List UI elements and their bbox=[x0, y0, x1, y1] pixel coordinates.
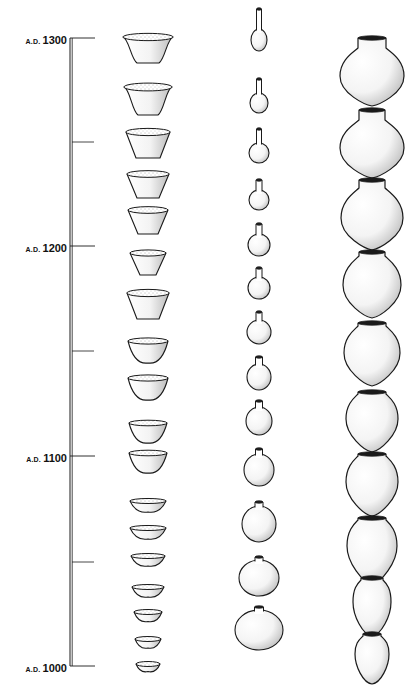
bottle bbox=[246, 400, 272, 435]
year-label-1200: A.D. 1200 bbox=[26, 239, 67, 255]
bowl-bowl-shallow bbox=[135, 637, 161, 649]
bowl-bowl-conical bbox=[130, 250, 166, 275]
bowl-bowl-shallow bbox=[132, 585, 164, 598]
bowl-bowl-flared bbox=[124, 83, 172, 115]
bottle bbox=[248, 267, 270, 299]
bowl-bowl-shallow bbox=[134, 610, 162, 622]
bottle bbox=[248, 223, 270, 256]
bowl-bowl-shallow bbox=[130, 498, 166, 512]
jar bbox=[341, 178, 403, 250]
bowl-bowl-conical bbox=[126, 128, 170, 158]
jar bbox=[353, 576, 391, 636]
bottle bbox=[250, 78, 268, 113]
bowl-bowl-shallow bbox=[131, 554, 165, 567]
diagram-canvas bbox=[0, 0, 419, 699]
era-label: A.D. bbox=[26, 246, 43, 253]
bowl-bowl-rounded bbox=[129, 420, 167, 443]
jar-column bbox=[340, 36, 404, 684]
jar bbox=[346, 452, 398, 516]
bottle bbox=[247, 311, 271, 344]
era-label: A.D. bbox=[26, 666, 43, 673]
bottle-column bbox=[235, 8, 283, 650]
year-value: 1300 bbox=[43, 34, 67, 46]
bowl-bowl-rounded bbox=[128, 375, 168, 400]
bottle bbox=[249, 128, 269, 163]
jar bbox=[340, 108, 404, 178]
timeline-axis bbox=[70, 38, 95, 666]
year-value: 1200 bbox=[43, 242, 67, 254]
bottle bbox=[244, 448, 274, 486]
bottle bbox=[249, 179, 269, 210]
bowl-bowl-conical bbox=[127, 171, 169, 198]
year-label-1100: A.D. 1100 bbox=[26, 449, 67, 465]
era-label: A.D. bbox=[26, 38, 43, 45]
bowl-bowl-flared bbox=[123, 33, 173, 63]
bowl-bowl-rounded bbox=[129, 450, 167, 473]
bowl-bowl-shallow bbox=[136, 662, 160, 672]
year-label-1300: A.D. 1300 bbox=[26, 31, 67, 47]
year-label-1000: A.D. 1000 bbox=[26, 659, 67, 675]
jar bbox=[347, 516, 397, 584]
bowl-bowl-conical bbox=[127, 289, 169, 319]
bottle bbox=[242, 501, 276, 542]
jar bbox=[340, 36, 404, 106]
bottle bbox=[235, 606, 283, 650]
bowl-bowl-conical bbox=[128, 207, 168, 234]
jar bbox=[343, 250, 401, 318]
jar bbox=[346, 390, 398, 452]
bowl-bowl-shallow bbox=[130, 525, 166, 539]
year-value: 1100 bbox=[43, 452, 67, 464]
era-label: A.D. bbox=[26, 456, 43, 463]
bowl-bowl-rounded bbox=[128, 338, 168, 363]
bottle bbox=[251, 8, 267, 51]
bottle bbox=[239, 556, 279, 596]
bowl-column bbox=[123, 33, 173, 671]
year-value: 1000 bbox=[43, 662, 67, 674]
jar bbox=[344, 321, 400, 386]
bottle bbox=[247, 356, 271, 390]
jar bbox=[355, 632, 389, 684]
